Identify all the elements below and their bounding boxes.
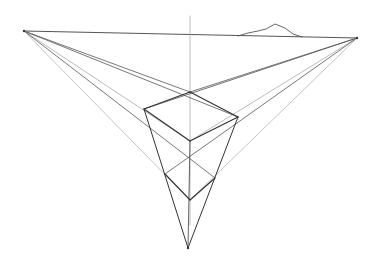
construction-line-right	[190, 38, 357, 141]
construction-line-left	[24, 31, 215, 178]
construction-line-right	[190, 38, 357, 200]
vanishing-point-bottom	[187, 247, 189, 249]
box-bottom-edge	[190, 178, 215, 200]
construction-line-right	[165, 38, 357, 174]
construction-line-left	[24, 31, 238, 117]
horizon-line	[24, 31, 357, 38]
box-top-edge	[144, 109, 190, 141]
box-top-edge	[144, 92, 190, 109]
perspective-drawing	[0, 0, 380, 265]
vanishing-point-left	[23, 30, 25, 32]
box-top-edge	[190, 92, 238, 117]
vanishing-point-right	[356, 37, 358, 39]
construction-line-left	[24, 31, 190, 92]
box-side-edge	[144, 109, 188, 248]
construction-line-left	[24, 31, 190, 141]
box-top-edge	[190, 117, 238, 141]
construction-line-right	[144, 38, 357, 109]
box-side-edge	[188, 117, 238, 248]
mountain-sketch	[238, 24, 302, 37]
